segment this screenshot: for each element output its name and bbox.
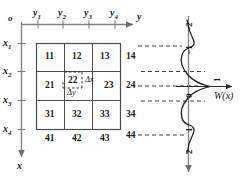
grid-cell-23: 23 — [104, 81, 114, 91]
grid-cell-12: 12 — [72, 52, 82, 62]
y-tick-label-3-sub: 3 — [88, 13, 92, 21]
wx-tick-label-minus2: −2 — [185, 22, 194, 32]
x-tick-label-4: x4 — [3, 124, 12, 137]
grid-cell-42: 42 — [72, 134, 82, 144]
delta-x-label: Δx — [85, 75, 94, 84]
y-tick-label-4: y4 — [110, 8, 118, 21]
wx-axis-label: W(x) — [214, 91, 233, 101]
y-tick-label-4-sub: 4 — [114, 13, 118, 21]
origin-label: o — [8, 14, 13, 23]
delta-y-label: Δy — [67, 88, 76, 97]
x-axis-label: x — [17, 161, 22, 171]
grid-cell-43: 43 — [100, 134, 110, 144]
grid-cell-31: 31 — [45, 110, 55, 120]
x-axis — [18, 22, 26, 157]
grid-cell-22: 22 — [68, 76, 78, 86]
grid-outside-34: 34 — [126, 110, 136, 120]
wx-tick-label-zero: 0 — [185, 94, 194, 99]
grid-cell-21: 21 — [45, 81, 55, 91]
y-axis — [21, 21, 133, 29]
grid-outside-44: 44 — [126, 131, 136, 141]
x-tick-label-3-sub: 3 — [8, 100, 12, 108]
y-tick-label-3: y3 — [84, 8, 92, 21]
figure-root: o y x y1 y2 y3 y4 x1 x2 x3 x4 11 12 13 1… — [0, 0, 251, 181]
grid-cell-13: 13 — [100, 52, 110, 62]
wx-tick-label-1: 1 — [185, 128, 194, 133]
x-tick-label-4-sub: 4 — [8, 129, 12, 137]
y-tick-label-2: y2 — [58, 8, 66, 21]
grid-cell-41: 41 — [45, 134, 55, 144]
grid-outside-24: 24 — [126, 81, 136, 91]
y-tick-label-1: y1 — [33, 8, 41, 21]
y-tick-label-1-sub: 1 — [37, 13, 41, 21]
wx-tick-label-minus1: −1 — [185, 45, 194, 55]
y-tick-label-2-sub: 2 — [62, 13, 66, 21]
y-axis-label: y — [137, 12, 141, 22]
grid-cell-33: 33 — [100, 110, 110, 120]
reference-dashed-lines — [138, 46, 205, 135]
x-tick-label-1: x1 — [3, 38, 12, 51]
wx-peak-label: 1 — [213, 78, 222, 83]
wx-tick-label-2: 2 — [185, 150, 194, 155]
grid-cell-32: 32 — [72, 110, 82, 120]
grid-outside-14: 14 — [126, 52, 136, 62]
x-tick-label-2: x2 — [3, 66, 12, 79]
grid-cell-11: 11 — [45, 52, 54, 62]
x-tick-label-1-sub: 1 — [8, 43, 12, 51]
x-tick-label-2-sub: 2 — [8, 71, 12, 79]
x-tick-label-3: x3 — [3, 95, 12, 108]
